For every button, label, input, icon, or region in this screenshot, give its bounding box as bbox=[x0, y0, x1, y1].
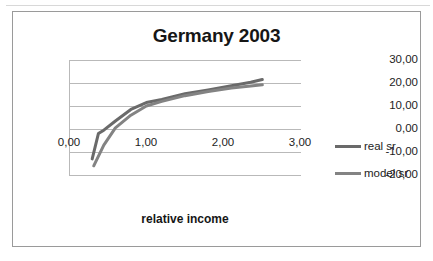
series-line-real-sr bbox=[92, 80, 262, 159]
chart-frame: Germany 2003 30,00 20,00 10,00 0,00 -10,… bbox=[12, 11, 421, 247]
legend-item-real-sr: real sr bbox=[335, 140, 421, 152]
legend-swatch-icon bbox=[335, 172, 361, 175]
x-axis-title: relative income bbox=[69, 212, 301, 226]
legend-item-model-sr: model sr bbox=[335, 167, 421, 179]
plot-area: 30,00 20,00 10,00 0,00 -10,00 -20,00 0,0… bbox=[13, 12, 422, 248]
legend-label: model sr bbox=[364, 167, 408, 179]
legend-label: real sr bbox=[364, 140, 396, 152]
chart-legend: real sr model sr bbox=[335, 140, 421, 194]
scan-artifact-line bbox=[6, 5, 430, 6]
legend-swatch-icon bbox=[335, 145, 361, 148]
series-line-model-sr bbox=[94, 85, 263, 166]
